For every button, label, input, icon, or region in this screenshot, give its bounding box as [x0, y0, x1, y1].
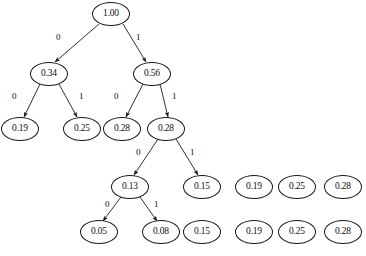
tree-edge	[55, 24, 99, 62]
edge-label: 0	[56, 33, 61, 42]
binary-tree-diagram: 0101010101 1.000.340.560.190.250.280.280…	[0, 0, 366, 256]
tree-node: 0.25	[63, 117, 101, 141]
tree-edge	[59, 84, 77, 117]
tree-node: 0.28	[103, 117, 141, 141]
tree-node: 0.19	[1, 117, 39, 141]
edge-label: 0	[12, 92, 17, 101]
tree-node: 0.56	[133, 62, 171, 86]
edge-label: 1	[190, 148, 195, 157]
tree-node: 0.34	[30, 62, 68, 86]
tree-edge	[160, 84, 168, 117]
edge-label: 0	[114, 92, 119, 101]
tree-edge	[176, 139, 198, 175]
tree-node: 0.19	[235, 220, 273, 244]
tree-node: 0.19	[235, 175, 273, 199]
tree-edge	[24, 84, 40, 117]
tree-node: 0.13	[111, 175, 149, 199]
edge-label: 1	[154, 200, 159, 209]
edge-label: 1	[79, 92, 84, 101]
tree-node: 0.05	[80, 220, 118, 244]
edge-label: 1	[172, 92, 177, 101]
edge-label: 0	[105, 200, 110, 209]
tree-edge	[134, 139, 158, 175]
tree-node: 0.28	[324, 220, 362, 244]
tree-node: 0.15	[183, 175, 221, 199]
tree-edge	[123, 24, 146, 62]
tree-node: 0.28	[147, 117, 185, 141]
tree-node: 0.25	[278, 220, 316, 244]
tree-node: 0.15	[183, 220, 221, 244]
tree-node: 1.00	[92, 2, 130, 26]
tree-node: 0.08	[142, 220, 180, 244]
edge-label: 0	[136, 148, 141, 157]
tree-edge	[126, 84, 143, 117]
tree-node: 0.28	[324, 175, 362, 199]
tree-node: 0.25	[278, 175, 316, 199]
edge-label: 1	[136, 33, 141, 42]
